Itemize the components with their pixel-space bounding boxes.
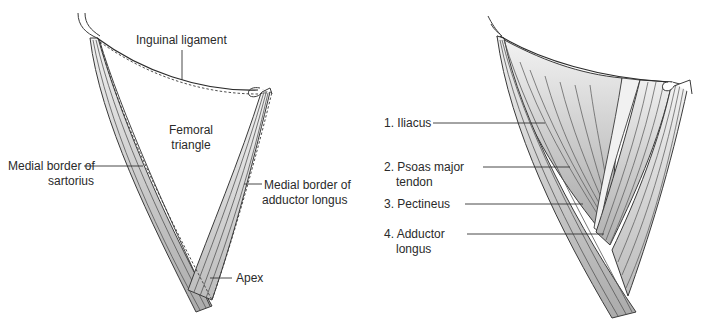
label-femoral-triangle-2: triangle <box>166 138 216 152</box>
label-pectineus: 3. Pectineus <box>384 197 450 211</box>
label-apex: Apex <box>236 271 263 285</box>
adductor-longus-muscle <box>188 90 270 300</box>
label-adductor-longus-2: longus <box>396 242 431 256</box>
label-text: Pectineus <box>397 197 450 211</box>
label-femoral-triangle-1: Femoral <box>166 123 216 137</box>
asis-right <box>488 16 502 36</box>
femoral-triangle-illustration <box>0 0 705 327</box>
label-text: Iliacus <box>397 116 431 130</box>
anatomy-figure: Inguinal ligament Femoral triangle Media… <box>0 0 705 327</box>
label-iliacus: 1. Iliacus <box>384 116 431 130</box>
label-number: 2. <box>384 160 394 174</box>
label-text: Adductor <box>397 227 445 241</box>
label-adductor-longus: 4. Adductor <box>384 227 445 241</box>
label-adductor-1: Medial border of <box>264 178 351 192</box>
label-number: 1. <box>384 116 394 130</box>
label-number: 4. <box>384 227 394 241</box>
label-text: Psoas major <box>397 160 464 174</box>
label-psoas-tendon: tendon <box>396 175 433 189</box>
asis-left <box>78 13 100 38</box>
label-sartorius-1: Medial border of <box>8 159 95 173</box>
label-psoas-major: 2. Psoas major <box>384 160 464 174</box>
label-adductor-2: adductor longus <box>262 193 347 207</box>
label-sartorius-2: sartorius <box>48 174 94 188</box>
label-number: 3. <box>384 197 394 211</box>
label-inguinal-ligament: Inguinal ligament <box>136 33 227 47</box>
sartorius-muscle <box>90 38 212 312</box>
